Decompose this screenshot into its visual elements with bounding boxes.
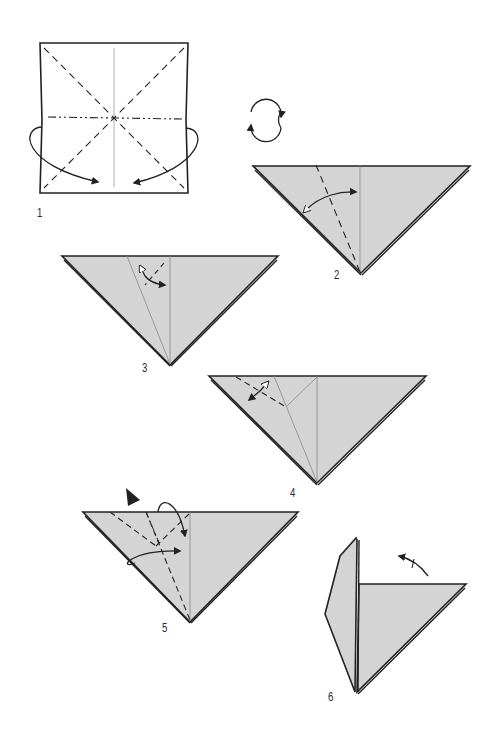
step-3-diagram (62, 256, 278, 366)
origami-diagram (0, 0, 494, 737)
step-2-diagram (253, 165, 470, 275)
step-number-3: 3 (142, 361, 147, 375)
push-in-arrow-icon (126, 488, 140, 506)
step-number-2: 2 (334, 268, 339, 282)
step-4-diagram (209, 376, 426, 485)
step-number-1: 1 (37, 206, 42, 220)
step-1-diagram (30, 43, 198, 193)
step-5-diagram (83, 488, 298, 623)
turn-over-icon (251, 99, 281, 141)
step-number-6: 6 (328, 690, 333, 704)
step-number-5: 5 (162, 621, 167, 635)
step-6-diagram (325, 538, 466, 694)
step-number-4: 4 (290, 486, 295, 500)
